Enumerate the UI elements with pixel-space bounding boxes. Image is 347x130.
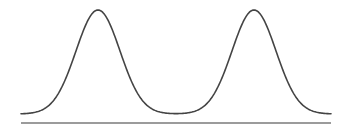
bimodal-curve bbox=[21, 10, 331, 114]
bimodal-curve-diagram bbox=[0, 0, 347, 130]
